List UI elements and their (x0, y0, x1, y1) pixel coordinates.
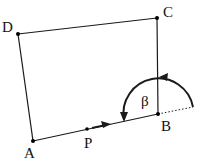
point-d-dot (16, 32, 20, 36)
label-p: P (84, 135, 92, 151)
point-c-dot (155, 16, 159, 20)
label-a: A (24, 145, 35, 161)
direction-arrowhead (101, 121, 111, 128)
edge-da (18, 34, 33, 141)
point-a-dot (31, 139, 35, 143)
geometry-diagram: A B C D P β (0, 0, 198, 164)
point-p-dot (85, 127, 89, 131)
label-d: D (2, 19, 13, 35)
point-b-dot (156, 112, 160, 116)
edge-bc (157, 18, 158, 114)
dotted-extension (158, 107, 193, 114)
label-c: C (163, 4, 173, 20)
label-beta: β (141, 93, 149, 109)
label-b: B (161, 118, 171, 134)
quadrilateral-figure: A B C D P β (0, 0, 198, 164)
arc-arrowhead-top (159, 73, 168, 81)
edge-cd (18, 18, 157, 34)
